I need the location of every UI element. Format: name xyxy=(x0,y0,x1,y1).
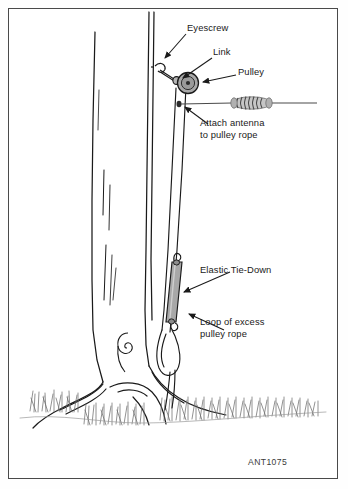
label-loop-line1: Loop of excess xyxy=(200,316,264,328)
label-eyescrew: Eyescrew xyxy=(187,22,228,34)
pulley xyxy=(178,73,199,94)
trunk-knot xyxy=(118,333,132,372)
label-attach-antenna-line1: Attach antenna xyxy=(200,117,264,129)
label-link: Link xyxy=(213,46,231,58)
diagram-artwork xyxy=(0,0,348,489)
leader-eyescrew xyxy=(165,34,186,58)
label-elastic-tie-down: Elastic Tie-Down xyxy=(200,264,271,276)
label-pulley: Pulley xyxy=(238,66,264,78)
leader-pulley xyxy=(203,75,236,82)
antenna-loading-coil xyxy=(231,97,272,110)
elastic-tie-down xyxy=(166,253,182,330)
label-attach-antenna-line2: to pulley rope xyxy=(200,129,258,141)
antenna-attach-point xyxy=(177,101,182,107)
label-loop-line2: pulley rope xyxy=(200,328,247,340)
diagram-canvas: Eyescrew Link Pulley Attach antenna to p… xyxy=(0,0,348,489)
leader-link xyxy=(183,58,212,78)
pulley-rope xyxy=(157,86,186,410)
figure-reference-code: ANT1075 xyxy=(248,457,287,467)
tree-trunk xyxy=(92,12,154,382)
